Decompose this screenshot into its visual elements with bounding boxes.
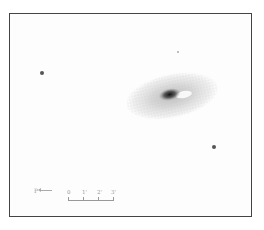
- scale-tickmark: [83, 197, 84, 201]
- scale-tickmark: [98, 197, 99, 201]
- scale-tickmark: [113, 197, 114, 201]
- scale-tickmark: [68, 197, 69, 201]
- scale-tick-3: 3': [111, 190, 116, 196]
- scale-bar: 0 1' 2' 3': [68, 190, 114, 202]
- scale-tick-2: 2': [97, 190, 102, 196]
- star: [212, 145, 216, 149]
- scale-tick-1: 1': [82, 190, 87, 196]
- scale-line: [68, 200, 114, 201]
- star-faint: [177, 51, 179, 53]
- direction-arrow-icon: [40, 190, 52, 191]
- star: [40, 71, 44, 75]
- scale-tick-0: 0: [67, 190, 71, 196]
- galaxy-drawing: [0, 0, 264, 230]
